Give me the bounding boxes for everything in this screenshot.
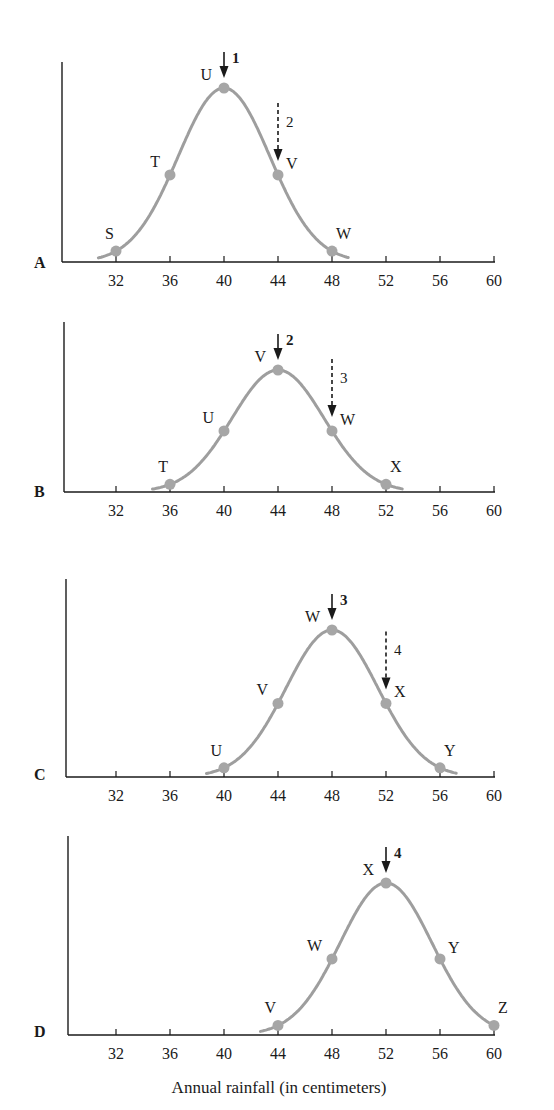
point-label: Y — [444, 742, 456, 759]
x-tick-label: 32 — [108, 272, 124, 289]
point-label: V — [264, 999, 276, 1016]
data-point-x — [381, 698, 392, 709]
distribution-curve — [98, 88, 348, 258]
panel-letter: C — [34, 766, 46, 783]
panel-b: 3236404448525660BTUVWX23 — [34, 322, 502, 519]
data-point-v — [273, 1020, 284, 1031]
x-tick-label: 48 — [324, 272, 340, 289]
data-point-u — [219, 762, 230, 773]
x-tick-label: 52 — [378, 787, 394, 804]
arrow-down-icon — [382, 677, 391, 689]
x-tick-label: 48 — [324, 787, 340, 804]
x-tick-label: 60 — [486, 1045, 502, 1062]
x-tick-label: 48 — [324, 502, 340, 519]
point-label: U — [202, 409, 214, 426]
x-tick-label: 56 — [432, 272, 448, 289]
distribution-curve — [261, 883, 496, 1031]
point-label: U — [200, 66, 212, 83]
data-point-w — [327, 625, 338, 636]
x-tick-label: 56 — [432, 1045, 448, 1062]
x-tick-label: 44 — [270, 1045, 286, 1062]
point-label: V — [254, 348, 266, 365]
panel-c: 3236404448525660CUVWXY34 — [34, 579, 502, 804]
x-tick-label: 48 — [324, 1045, 340, 1062]
data-point-v — [273, 365, 284, 376]
data-point-t — [165, 479, 176, 490]
x-tick-label: 60 — [486, 502, 502, 519]
arrow-label: 3 — [340, 592, 348, 608]
data-point-u — [219, 83, 230, 94]
point-label: W — [305, 608, 321, 625]
x-tick-label: 32 — [108, 502, 124, 519]
point-label: Y — [448, 939, 460, 956]
x-axis-title: Annual rainfall (in centimeters) — [172, 1078, 387, 1097]
distribution-curve — [153, 370, 403, 489]
rainfall-distribution-chart: 3236404448525660ASTUVW123236404448525660… — [0, 0, 554, 1110]
panel-letter: D — [34, 1023, 46, 1040]
arrow-label: 4 — [394, 845, 402, 861]
x-tick-label: 60 — [486, 272, 502, 289]
x-tick-label: 44 — [270, 272, 286, 289]
point-label: W — [307, 937, 323, 954]
data-point-w — [327, 425, 338, 436]
arrow-label: 4 — [394, 642, 402, 658]
x-tick-label: 52 — [378, 1045, 394, 1062]
x-tick-label: 36 — [162, 272, 178, 289]
arrow-down-icon — [328, 405, 337, 417]
x-tick-label: 60 — [486, 787, 502, 804]
arrow-label: 1 — [232, 50, 240, 66]
arrow-label: 2 — [286, 114, 294, 130]
x-tick-label: 56 — [432, 502, 448, 519]
point-label: V — [256, 681, 268, 698]
data-point-v — [273, 698, 284, 709]
panel-a: 3236404448525660ASTUVW12 — [34, 50, 502, 289]
x-tick-label: 36 — [162, 787, 178, 804]
data-point-z — [489, 1020, 500, 1031]
data-point-t — [165, 169, 176, 180]
x-tick-label: 32 — [108, 1045, 124, 1062]
x-tick-label: 44 — [270, 787, 286, 804]
data-point-u — [219, 425, 230, 436]
x-tick-label: 52 — [378, 502, 394, 519]
panel-letter: A — [34, 254, 46, 271]
arrow-down-icon — [382, 861, 391, 873]
point-label: V — [286, 155, 298, 172]
data-point-s — [111, 246, 122, 257]
data-point-v — [273, 169, 284, 180]
point-label: W — [340, 411, 356, 428]
point-label: S — [105, 225, 114, 242]
arrow-down-icon — [328, 608, 337, 620]
data-point-y — [435, 953, 446, 964]
panel-d: 3236404448525660DVWXYZ4Annual rainfall (… — [34, 836, 508, 1097]
data-point-x — [381, 479, 392, 490]
point-label: X — [390, 458, 402, 475]
x-tick-label: 40 — [216, 1045, 232, 1062]
point-label: T — [158, 458, 168, 475]
x-tick-label: 40 — [216, 787, 232, 804]
point-label: X — [362, 861, 374, 878]
point-label: T — [150, 153, 160, 170]
x-tick-label: 52 — [378, 272, 394, 289]
arrow-down-icon — [274, 348, 283, 360]
data-point-x — [381, 878, 392, 889]
data-point-w — [327, 246, 338, 257]
x-tick-label: 56 — [432, 787, 448, 804]
x-tick-label: 40 — [216, 502, 232, 519]
x-tick-label: 36 — [162, 1045, 178, 1062]
x-tick-label: 40 — [216, 272, 232, 289]
data-point-y — [435, 762, 446, 773]
arrow-down-icon — [220, 66, 229, 78]
x-tick-label: 32 — [108, 787, 124, 804]
point-label: X — [394, 683, 406, 700]
panel-letter: B — [34, 483, 45, 500]
point-label: U — [210, 742, 222, 759]
x-tick-label: 44 — [270, 502, 286, 519]
point-label: Z — [498, 999, 508, 1016]
arrow-down-icon — [274, 149, 283, 161]
arrow-label: 3 — [340, 370, 348, 386]
point-label: W — [336, 225, 352, 242]
distribution-curve — [207, 630, 457, 774]
x-tick-label: 36 — [162, 502, 178, 519]
arrow-label: 2 — [286, 332, 294, 348]
data-point-w — [327, 953, 338, 964]
